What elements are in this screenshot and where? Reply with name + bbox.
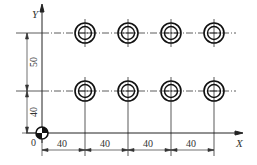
holes [75, 19, 224, 156]
dim-y-40: 40 [28, 107, 39, 117]
hole [204, 19, 224, 47]
vertical-dimensions [22, 33, 36, 133]
x-axis-label: X [235, 137, 244, 149]
hole [161, 19, 181, 47]
hole [75, 77, 95, 156]
dim-x-1: 40 [57, 138, 67, 149]
y-axis-label: Y [32, 8, 40, 20]
hole [75, 19, 95, 47]
origin-symbol [36, 127, 48, 139]
hole [118, 77, 138, 156]
x-axis-arrow [235, 131, 243, 135]
hole [118, 19, 138, 47]
hole [204, 77, 224, 156]
dim-x-2: 40 [100, 138, 110, 149]
drawing-canvas: Y X 0 40 40 40 40 [0, 0, 257, 165]
y-axis-arrow [40, 4, 44, 12]
dim-x-4: 40 [186, 138, 196, 149]
hole-pattern-drawing: Y X 0 40 40 40 40 [0, 0, 257, 165]
origin-label: 0 [31, 137, 36, 148]
dim-y-50: 50 [28, 57, 39, 67]
dim-x-3: 40 [143, 138, 153, 149]
hole [161, 77, 181, 156]
